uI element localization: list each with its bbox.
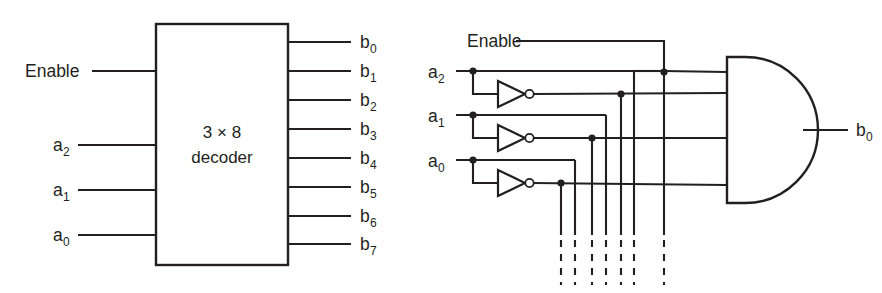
inverter-a0: [498, 170, 534, 196]
label-b3-left: b: [360, 119, 370, 139]
inverter-a1: [498, 125, 534, 151]
label-a0-left-sub: 0: [63, 235, 70, 249]
decoder-box-label-line1: 3 × 8: [203, 123, 241, 142]
label-b7-left: b: [360, 234, 370, 254]
label-a2-left-sub: 2: [63, 145, 70, 159]
label-b0-left-sub: 0: [370, 42, 377, 56]
label-b2-left: b: [360, 90, 370, 110]
inverter-a1-triangle: [498, 125, 525, 151]
decoder-output-wires: [288, 42, 351, 244]
inverter-a0-bubble: [525, 179, 533, 187]
label-b6-left-sub: 6: [370, 216, 377, 230]
label-a1-right-sub: 1: [438, 116, 445, 130]
inverter-a2: [498, 81, 534, 107]
label-b6-left: b: [360, 206, 370, 226]
label-b2-left-sub: 2: [370, 100, 377, 114]
label-a2-right: a: [428, 62, 438, 82]
inverter-a0-triangle: [498, 170, 525, 196]
label-a2-right-sub: 2: [438, 72, 445, 86]
label-a0-right-sub: 0: [438, 161, 445, 175]
wire-a0-to-inverter: [473, 160, 498, 183]
label-b0-right: b: [856, 120, 866, 140]
label-a0-left: a: [53, 225, 63, 245]
wire-a2-and-input: [664, 71, 727, 72]
bus-dashed-continuations: [561, 240, 664, 285]
decoder-input-wires: [78, 71, 156, 235]
label-b1-left: b: [360, 61, 370, 81]
label-b0-left: b: [360, 32, 370, 52]
label-a1-right: a: [428, 106, 438, 126]
inverter-a2-triangle: [498, 81, 525, 107]
decoder-box-label-line2: decoder: [191, 148, 253, 167]
label-b5-left: b: [360, 177, 370, 197]
label-b0-right-sub: 0: [866, 130, 873, 144]
logic-diagram-figure: 3 × 8 decoder Enable a 2 a 1 a 0 b 0 b 1…: [0, 0, 882, 293]
label-b4-left: b: [360, 148, 370, 168]
decoder-block-symbol: 3 × 8 decoder Enable a 2 a 1 a 0 b 0 b 1…: [25, 24, 377, 265]
label-a1-left: a: [53, 180, 63, 200]
wire-enable-to-and: [516, 41, 664, 72]
label-enable-left: Enable: [25, 61, 80, 81]
label-a0-right: a: [428, 151, 438, 171]
wire-a2-to-inverter: [473, 71, 498, 94]
circuit-diagram-canvas: 3 × 8 decoder Enable a 2 a 1 a 0 b 0 b 1…: [0, 0, 882, 293]
decoder-internal-circuit: Enable a 2 a 1 a 0 b 0: [428, 31, 873, 285]
label-b1-left-sub: 1: [370, 71, 377, 85]
decoder-box: [156, 24, 288, 265]
label-b3-left-sub: 3: [370, 129, 377, 143]
label-enable-right: Enable: [467, 31, 522, 51]
label-a1-left-sub: 1: [63, 190, 70, 204]
wire-a2-inv-out: [533, 93, 727, 94]
inverter-a1-bubble: [525, 134, 533, 142]
label-a2-left: a: [53, 135, 63, 155]
inverter-a2-bubble: [525, 90, 533, 98]
label-b5-left-sub: 5: [370, 187, 377, 201]
wire-a1-to-inverter: [473, 115, 498, 138]
label-b4-left-sub: 4: [370, 158, 377, 172]
label-b7-left-sub: 7: [370, 244, 377, 258]
